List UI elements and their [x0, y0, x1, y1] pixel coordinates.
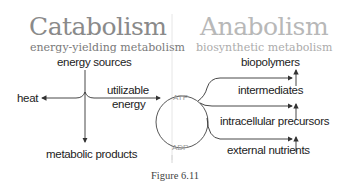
atp-to-precursors-arrow — [200, 103, 292, 106]
adp-label: ADP — [172, 143, 188, 152]
utilizable-label: utilizable — [107, 84, 149, 96]
heat-arrow — [42, 92, 85, 98]
figure-caption: Figure 6.11 — [151, 170, 199, 181]
atp-adp-cycle — [156, 96, 208, 148]
catabolism-title: Catabolism — [29, 12, 167, 41]
intracellular-precursors-label: intracellular precursors — [220, 115, 329, 127]
biopolymers-label: biopolymers — [241, 56, 300, 68]
anabolism-title: Anabolism — [200, 12, 328, 41]
external-nutrients-label: external nutrients — [227, 144, 310, 156]
intermediates-label: intermediates — [238, 84, 303, 96]
atp-label: ATP — [173, 93, 188, 102]
energy-sources-label: energy sources — [57, 56, 131, 68]
catabolism-subtitle: energy-yielding metabolism — [30, 41, 185, 54]
heat-label: heat — [17, 92, 38, 104]
energy-label: energy — [112, 98, 145, 110]
metabolic-products-label: metabolic products — [46, 148, 137, 160]
anabolism-subtitle: biosynthetic metabolism — [196, 41, 332, 54]
